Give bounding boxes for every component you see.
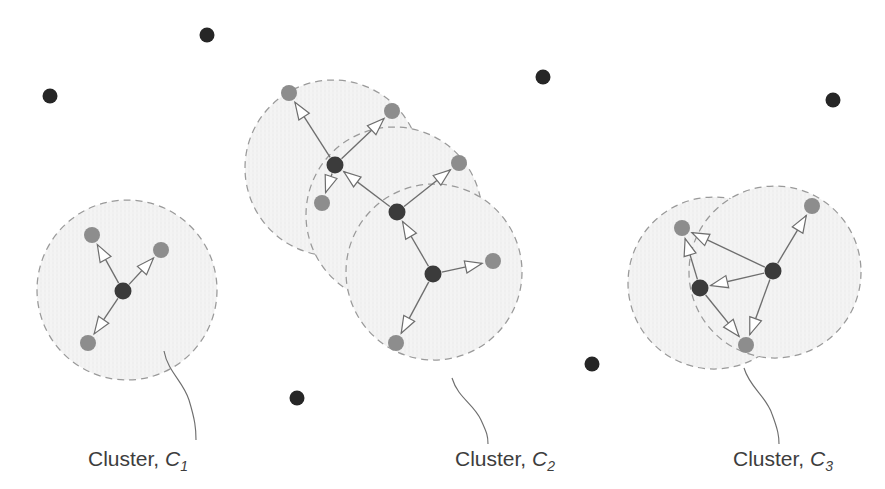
border-point-c1-1 xyxy=(153,242,169,258)
leader-line-c1 xyxy=(164,351,196,440)
border-point-c2-0 xyxy=(281,85,297,101)
noise-point-4 xyxy=(290,391,305,406)
core-point-c1-0 xyxy=(115,283,132,300)
core-point-c2-1 xyxy=(389,204,406,221)
border-point-c3-2 xyxy=(738,337,754,353)
cluster-label-c2: Cluster, C2 xyxy=(455,447,555,474)
diagram-canvas: Cluster, C1Cluster, C2Cluster, C3 xyxy=(0,0,885,489)
cluster-label-c3: Cluster, C3 xyxy=(733,447,833,474)
border-point-c2-1 xyxy=(384,103,400,119)
border-point-c2-2 xyxy=(314,195,330,211)
core-point-c2-0 xyxy=(327,157,344,174)
leader-line-c2 xyxy=(452,378,488,444)
core-point-c3-1 xyxy=(765,263,782,280)
border-point-c3-0 xyxy=(674,220,690,236)
noise-point-3 xyxy=(826,93,841,108)
border-point-c1-0 xyxy=(84,227,100,243)
border-point-c1-2 xyxy=(80,335,96,351)
border-point-c3-1 xyxy=(804,198,820,214)
cluster-labels: Cluster, C1Cluster, C2Cluster, C3 xyxy=(88,447,833,474)
cluster-label-c1: Cluster, C1 xyxy=(88,447,188,474)
clusters-diagram: Cluster, C1Cluster, C2Cluster, C3 xyxy=(0,0,885,489)
noise-point-1 xyxy=(43,89,58,104)
border-point-c2-4 xyxy=(485,253,501,269)
core-point-c2-2 xyxy=(425,266,442,283)
border-point-c2-3 xyxy=(451,155,467,171)
noise-point-0 xyxy=(200,28,215,43)
core-point-c3-0 xyxy=(692,280,709,297)
noise-point-5 xyxy=(585,357,600,372)
noise-point-2 xyxy=(536,70,551,85)
border-point-c2-5 xyxy=(388,335,404,351)
leader-line-c3 xyxy=(744,368,779,444)
